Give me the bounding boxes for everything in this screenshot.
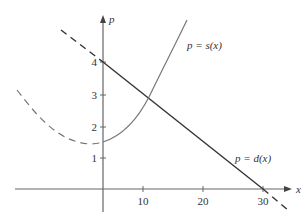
- x-tick-label-10: 10: [138, 195, 150, 207]
- plot-area: p x 10 20 30 4 3 2 1 p = s(x) p = d(x): [0, 0, 308, 220]
- supply-demand-chart: p x 10 20 30 4 3 2 1 p = s(x) p = d(x): [0, 0, 308, 220]
- p-axis-label: p: [108, 13, 115, 25]
- y-axis-arrow-icon: [100, 15, 106, 23]
- x-axis: [15, 186, 292, 192]
- y-tick-label-1: 1: [92, 152, 98, 164]
- y-tick-label-2: 2: [92, 121, 98, 133]
- x-tick-label-30: 30: [258, 195, 270, 207]
- x-tick-label-20: 20: [198, 195, 210, 207]
- supply-curve: [17, 20, 187, 144]
- demand-curve-label: p = d(x): [234, 152, 271, 165]
- y-tick-label-3: 3: [92, 89, 98, 101]
- y-tick-label-4: 4: [92, 56, 98, 68]
- supply-curve-label: p = s(x): [186, 39, 222, 52]
- x-axis-label: x: [295, 183, 301, 195]
- y-axis: [100, 15, 106, 212]
- x-axis-arrow-icon: [284, 186, 292, 192]
